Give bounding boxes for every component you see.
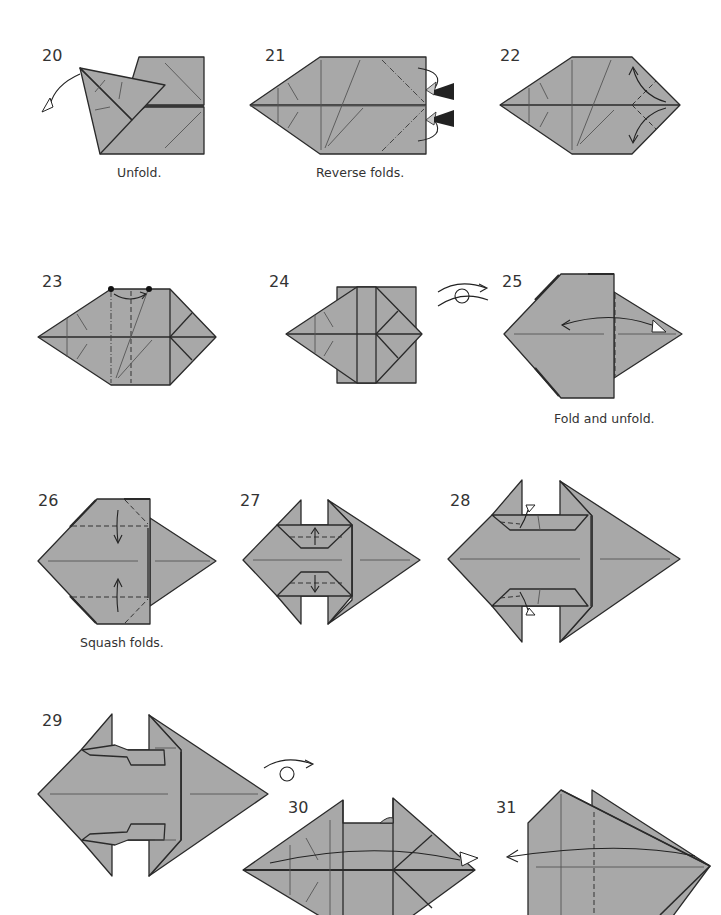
step-28-diagram xyxy=(430,460,721,660)
step-28: 28 xyxy=(430,460,721,660)
step-23-diagram xyxy=(0,260,240,420)
step-25: 25 Fold and unfold. xyxy=(480,260,721,440)
step-caption: Unfold. xyxy=(117,165,162,180)
reference-dot-icon xyxy=(108,286,114,292)
reference-dot-icon xyxy=(146,286,152,292)
step-21: 21 Reverse folds. xyxy=(240,0,480,200)
turn-over-icon xyxy=(260,754,320,794)
step-caption: Squash folds. xyxy=(80,635,164,650)
push-arrow-icon xyxy=(434,83,454,100)
step-31-diagram xyxy=(470,790,721,915)
step-26: 26 Squash folds. xyxy=(0,460,240,660)
step-30-diagram xyxy=(230,790,490,915)
step-30: 30 xyxy=(230,790,490,915)
step-22: 22 xyxy=(480,0,721,200)
step-31: 31 xyxy=(470,790,721,915)
step-caption: Fold and unfold. xyxy=(554,411,655,426)
step-20: 20 Unfold. xyxy=(0,0,240,200)
step-22-diagram xyxy=(480,0,721,200)
step-27-diagram xyxy=(230,460,440,660)
step-23: 23 xyxy=(0,260,240,420)
step-caption: Reverse folds. xyxy=(316,165,404,180)
step-26-diagram xyxy=(0,460,240,660)
step-27: 27 xyxy=(230,460,440,660)
